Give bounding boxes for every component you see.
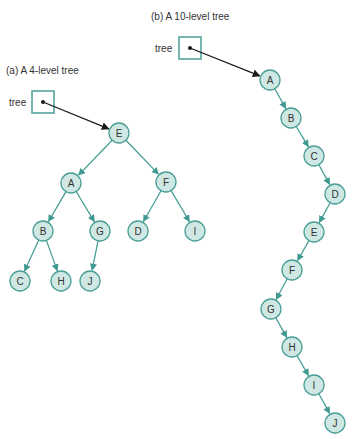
panel-b-edge-E-F [298,241,309,261]
node-label: A [68,178,75,189]
panel-b-node-H: H [282,337,302,357]
panel-b-node-G: G [261,299,281,319]
panel-a-node-G: G [90,221,110,241]
panel-a-node-C: C [10,271,30,291]
node-label: J [88,276,93,287]
panel-b-edge-F-G [276,279,287,300]
node-label: H [288,342,295,353]
panel-b-node-B: B [281,108,301,128]
panel-b-node-A: A [260,70,280,90]
panel-b-title: (b) A 10-level tree [151,11,229,22]
panel-b-node-C: C [304,146,324,166]
panel-b-edge-I-J [319,394,330,414]
panel-a-node-J: J [80,271,100,291]
panel-b-edge-G-H [276,318,287,338]
panel-a-edge-B-H [46,240,57,270]
node-label: I [194,226,197,237]
panel-a-pointer-arrow [43,102,109,129]
node-label: A [267,75,274,86]
node-label: C [310,151,317,162]
node-label: B [288,113,295,124]
panel-b-pointer-label: tree [155,43,172,54]
node-label: H [57,276,64,287]
panel-b-edge-A-B [275,89,286,109]
panel-a-edge-E-F [126,140,158,174]
panel-b-edge-H-I [297,356,308,376]
panel-b-node-F: F [282,260,302,280]
panel-b-node-I: I [304,375,324,395]
panel-a-node-F: F [156,172,176,192]
node-label: F [163,177,169,188]
node-label: F [289,265,295,276]
panel-a-edge-B-C [25,240,39,271]
panel-a-edge-F-D [143,191,161,222]
node-label: J [333,418,338,429]
diagram-canvas: EAFBGDICHJ ABCDEFGHIJ (a) A 4-level tree… [0,0,358,439]
panel-b-node-J: J [325,413,345,433]
panel-a-node-A: A [61,173,81,193]
panel-a-node-E: E [109,123,129,143]
panel-a-edge-F-I [171,191,189,222]
panel-a-tree: EAFBGDICHJ [10,91,205,291]
node-label: E [311,227,318,238]
node-label: B [40,226,47,237]
panel-a-node-H: H [51,271,71,291]
panel-a-pointer-label: tree [9,97,26,108]
panel-a-edge-A-G [76,192,94,222]
panel-b-node-E: E [304,222,324,242]
node-label: E [116,128,123,139]
node-label: D [331,189,338,200]
panel-b-edge-B-C [296,127,308,147]
panel-a-node-I: I [185,221,205,241]
panel-a-edge-G-J [92,241,98,270]
panel-a-edge-E-A [79,140,112,175]
node-label: I [313,380,316,391]
panel-b-edge-C-D [319,165,330,185]
node-label: C [16,276,23,287]
panel-a-title: (a) A 4-level tree [6,65,79,76]
panel-b-pointer-arrow [190,48,260,76]
panel-b-edge-D-E [319,203,330,223]
node-label: D [134,226,141,237]
panel-a-edge-A-B [49,192,66,222]
panel-a-node-D: D [128,221,148,241]
panel-b-node-D: D [325,184,345,204]
node-label: G [267,304,275,315]
panel-a-node-B: B [33,221,53,241]
node-label: G [96,226,104,237]
